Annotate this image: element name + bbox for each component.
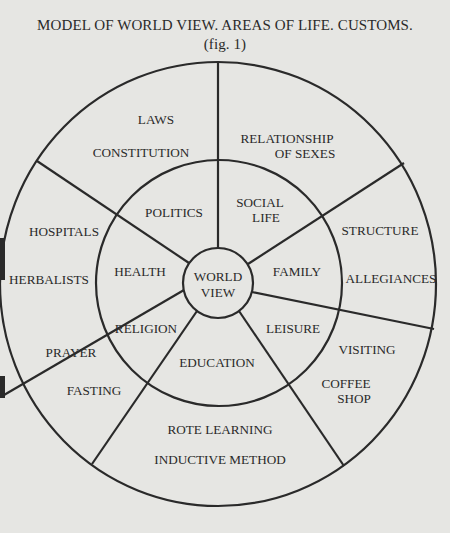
center-label-world: WORLD xyxy=(194,269,242,284)
area-politics: POLITICS xyxy=(145,205,203,220)
custom-prayer: PRAYER xyxy=(46,345,97,360)
custom-allegiances: ALLEGIANCES xyxy=(346,271,437,286)
spoke-left xyxy=(4,290,184,395)
custom-coffee: COFFEE xyxy=(321,376,370,391)
custom-hospitals: HOSPITALS xyxy=(29,224,99,239)
area-education: EDUCATION xyxy=(179,355,254,370)
custom-fasting: FASTING xyxy=(67,383,122,398)
custom-shop: SHOP xyxy=(337,391,371,406)
area-religion: RELIGION xyxy=(115,321,177,336)
area-social-life-line1: SOCIAL xyxy=(236,195,284,210)
custom-rote-learning: ROTE LEARNING xyxy=(167,422,272,437)
custom-structure: STRUCTURE xyxy=(342,223,419,238)
custom-constitution: CONSTITUTION xyxy=(93,145,190,160)
custom-inductive-method: INDUCTIVE METHOD xyxy=(154,452,286,467)
custom-relationship: RELATIONSHIP xyxy=(240,131,333,146)
page-edge-shadow xyxy=(0,238,5,280)
area-health: HEALTH xyxy=(114,264,166,279)
area-leisure: LEISURE xyxy=(266,321,320,336)
area-social-life-line2: LIFE xyxy=(252,210,280,225)
custom-herbalists: HERBALISTS xyxy=(9,272,89,287)
page-edge-shadow xyxy=(0,376,5,398)
area-family: FAMILY xyxy=(273,264,321,279)
center-label-view: VIEW xyxy=(201,285,235,300)
custom-visiting: VISITING xyxy=(338,342,395,357)
custom-of-sexes: OF SEXES xyxy=(275,146,335,161)
custom-laws: LAWS xyxy=(138,112,174,127)
